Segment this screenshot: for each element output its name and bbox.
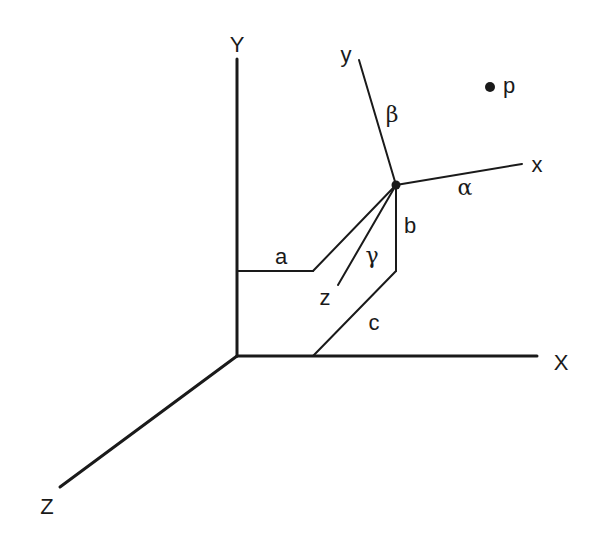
world-x-label: X xyxy=(554,350,569,375)
world-z-label: Z xyxy=(40,494,53,519)
offset-a-label: a xyxy=(275,244,288,269)
world-y-label: Y xyxy=(230,32,245,57)
offset-c-label: c xyxy=(369,310,380,335)
gamma-angle-label: γ xyxy=(365,243,378,268)
local-origin-point xyxy=(392,181,401,190)
coordinate-diagram: Y X Z y x z β α γ a b c p xyxy=(0,0,597,537)
world-z-axis xyxy=(60,356,237,487)
offset-b-label: b xyxy=(404,213,416,238)
offset-c-line xyxy=(313,271,396,356)
local-z-label: z xyxy=(320,285,331,310)
point-p-label: p xyxy=(503,73,515,98)
alpha-angle-label: α xyxy=(458,175,473,200)
point-p-marker xyxy=(485,82,495,92)
local-x-label: x xyxy=(532,152,543,177)
beta-angle-label: β xyxy=(386,102,399,127)
local-y-label: y xyxy=(341,42,352,67)
